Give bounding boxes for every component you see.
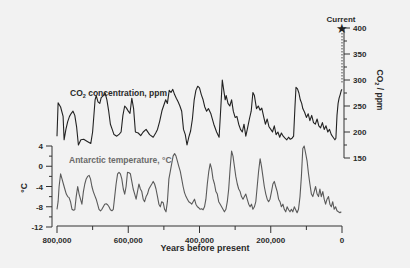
- ice-core-chart: 150200250300350400 40-4-8-12 800,000600,…: [0, 0, 410, 268]
- co2-tick-label: 150: [353, 154, 367, 163]
- x-tick-label: 600,000: [114, 236, 143, 245]
- co2-tick-label: 300: [353, 76, 367, 85]
- x-tick-label: 800,000: [43, 236, 72, 245]
- x-axis-title: Years before present: [160, 243, 249, 253]
- temperature-tick-label: 0: [39, 162, 44, 171]
- temperature-tick-label: 4: [39, 142, 44, 151]
- temperature-tick-label: -12: [31, 223, 43, 232]
- x-tick-label: 0: [340, 236, 345, 245]
- temperature-tick-label: -8: [36, 203, 44, 212]
- temperature-tick-label: -4: [36, 183, 44, 192]
- temperature-series-label: Antarctic temperature, °C: [69, 155, 172, 165]
- co2-series-label: CO2 concentration, ppm: [70, 88, 167, 99]
- co2-tick-label: 350: [353, 50, 367, 59]
- x-tick-label: 200,000: [256, 236, 285, 245]
- co2-axis-title: CO2 / ppm: [374, 70, 385, 111]
- temperature-axis: 40-4-8-12: [31, 142, 52, 232]
- co2-tick-label: 400: [353, 24, 367, 33]
- current-label: Current: [327, 15, 356, 24]
- co2-tick-label: 200: [353, 128, 367, 137]
- temperature-axis-title: °C: [19, 183, 29, 193]
- co2-tick-label: 250: [353, 102, 367, 111]
- co2-axis: 150200250300350400: [344, 24, 367, 163]
